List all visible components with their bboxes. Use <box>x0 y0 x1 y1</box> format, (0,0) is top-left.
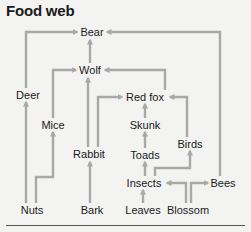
node-leaves: Leaves <box>125 204 160 216</box>
node-bark: Bark <box>81 204 104 216</box>
arrow-birds-redfox <box>170 97 187 137</box>
node-birds: Birds <box>177 138 202 150</box>
arrow-rabbit-redfox <box>98 97 122 147</box>
node-red-fox: Red fox <box>126 91 164 103</box>
node-deer: Deer <box>16 89 40 101</box>
arrow-redfox-wolf <box>105 70 165 90</box>
node-mice: Mice <box>41 119 64 131</box>
node-wolf: Wolf <box>79 64 101 76</box>
arrow-nuts-mice <box>36 132 53 203</box>
node-nuts: Nuts <box>21 204 44 216</box>
node-rabbit: Rabbit <box>73 148 105 160</box>
arrow-blossom-bees <box>191 183 208 203</box>
node-skunk: Skunk <box>130 119 161 131</box>
node-toads: Toads <box>130 149 159 161</box>
food-web-arrows <box>0 0 251 232</box>
arrow-bees-bear <box>107 32 220 176</box>
arrow-insects-birds <box>155 151 190 176</box>
node-bees: Bees <box>210 177 235 189</box>
node-blossom: Blossom <box>167 204 209 216</box>
bottom-divider <box>6 225 245 226</box>
arrow-deer-bear <box>26 32 77 88</box>
node-bear: Bear <box>80 26 103 38</box>
node-insects: Insects <box>127 177 162 189</box>
arrow-mice-wolf <box>53 70 76 118</box>
arrow-blossom-insects <box>167 183 186 203</box>
